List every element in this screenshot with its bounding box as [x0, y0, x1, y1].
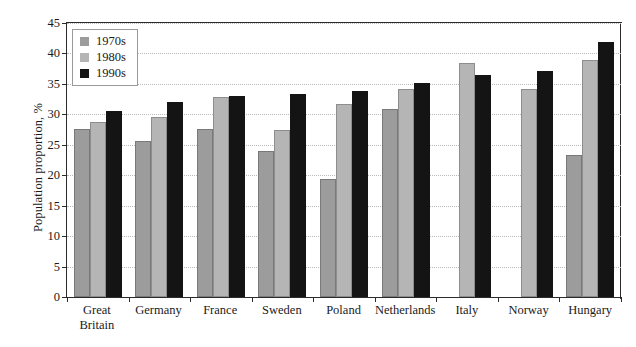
y-axis-tick-label: 25: [48, 137, 68, 152]
bar: [229, 96, 245, 297]
legend-swatch-icon: [80, 37, 89, 46]
x-axis-label: GreatBritain: [66, 303, 128, 332]
bar: [537, 71, 553, 298]
bar-group: [560, 23, 622, 297]
legend-label: 1980s: [96, 51, 126, 64]
x-axis-labels: GreatBritainGermanyFranceSwedenPolandNet…: [66, 303, 621, 332]
y-axis-title: Population proportion, %: [31, 38, 46, 298]
bar-group: [375, 23, 437, 297]
bar: [352, 91, 368, 297]
bar-chart: Population proportion, % 454035302520151…: [0, 0, 636, 347]
x-tick-mark: [375, 297, 376, 302]
bar: [135, 141, 151, 297]
y-axis-tick-label: 10: [48, 229, 68, 244]
bar: [414, 83, 430, 297]
bar-group: [436, 23, 498, 297]
y-axis-tick-label: 40: [48, 46, 68, 61]
bar: [290, 94, 306, 297]
bar: [459, 63, 475, 297]
x-tick-mark: [252, 297, 253, 302]
legend-label: 1990s: [96, 67, 126, 80]
legend-item: 1990s: [80, 67, 126, 80]
x-axis-label-line: Sweden: [251, 303, 313, 318]
bar: [521, 89, 537, 297]
x-tick-mark: [313, 297, 314, 302]
bar-group: [498, 23, 560, 297]
x-axis-label-line: Netherlands: [374, 303, 436, 318]
y-axis-tick-label: 30: [48, 107, 68, 122]
x-tick-mark: [559, 297, 560, 302]
x-tick-mark: [621, 297, 622, 302]
bar: [258, 151, 274, 297]
bar: [151, 117, 167, 297]
x-axis-label: Germany: [128, 303, 190, 332]
bar: [598, 42, 614, 297]
plot-area: 454035302520151050: [66, 23, 621, 298]
bar: [582, 60, 598, 297]
y-axis-tick-label: 35: [48, 76, 68, 91]
x-axis-label: Hungary: [559, 303, 621, 332]
x-tick-mark: [129, 297, 130, 302]
x-axis-label: France: [189, 303, 251, 332]
bar: [90, 122, 106, 297]
bar: [213, 97, 229, 297]
x-tick-mark: [190, 297, 191, 302]
x-axis-label: Poland: [313, 303, 375, 332]
x-axis-label-line: Germany: [128, 303, 190, 318]
y-axis-tick-label: 5: [54, 259, 67, 274]
x-axis-label: Italy: [436, 303, 498, 332]
legend-item: 1970s: [80, 35, 126, 48]
x-axis-label-line: Great: [66, 303, 128, 318]
y-axis-tick-label: 15: [48, 198, 68, 213]
bar: [74, 129, 90, 297]
y-axis-tick-label: 45: [48, 16, 68, 31]
y-axis-tick-label: 0: [54, 290, 67, 305]
bar: [475, 75, 491, 297]
bar: [106, 111, 122, 297]
bar: [197, 129, 213, 297]
x-tick-mark: [67, 297, 68, 302]
x-axis-label: Norway: [498, 303, 560, 332]
legend-label: 1970s: [96, 35, 126, 48]
bar: [398, 89, 414, 297]
x-axis-label: Netherlands: [374, 303, 436, 332]
x-axis-label-line: France: [189, 303, 251, 318]
x-tick-mark: [498, 297, 499, 302]
bar: [167, 102, 183, 297]
legend-item: 1980s: [80, 51, 126, 64]
x-axis-label-line: Britain: [66, 318, 128, 333]
bar: [336, 104, 352, 297]
chart-legend: 1970s1980s1990s: [72, 29, 138, 86]
bar-group: [190, 23, 252, 297]
legend-swatch-icon: [80, 69, 89, 78]
x-axis-label: Sweden: [251, 303, 313, 332]
x-axis-label-line: Italy: [436, 303, 498, 318]
bar-groups: [67, 23, 621, 297]
bar: [274, 130, 290, 297]
x-axis-label-line: Norway: [498, 303, 560, 318]
bar-group: [252, 23, 314, 297]
x-tick-mark: [436, 297, 437, 302]
legend-swatch-icon: [80, 53, 89, 62]
x-axis-label-line: Poland: [313, 303, 375, 318]
bar: [382, 109, 398, 297]
bar: [320, 179, 336, 297]
bar-group: [313, 23, 375, 297]
x-axis-label-line: Hungary: [559, 303, 621, 318]
y-axis-tick-label: 20: [48, 168, 68, 183]
bar: [566, 155, 582, 297]
